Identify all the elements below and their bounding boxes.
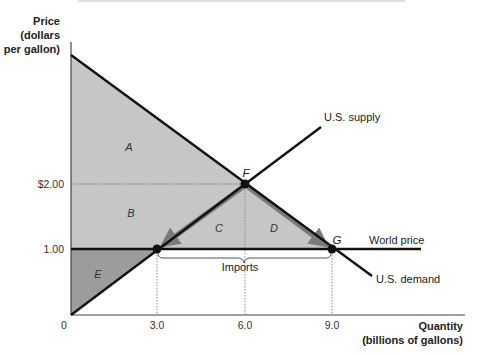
region-a-label: A (124, 141, 132, 153)
chart-canvas: Price (dollars per gallon) Quantity (bil… (0, 0, 482, 355)
x-tick-6: 6.0 (238, 319, 253, 331)
supply-label: U.S. supply (324, 111, 381, 123)
y-tick-2: $2.00 (38, 178, 64, 190)
demand-label: U.S. demand (376, 273, 440, 285)
y-axis-title-line1: Price (33, 15, 60, 27)
world-price-label: World price (369, 234, 424, 246)
y-tick-1: 1.00 (44, 243, 65, 255)
region-b-label: B (127, 207, 134, 219)
x-tick-9: 9.0 (325, 319, 340, 331)
x-axis-title-line2: (billions of gallons) (362, 334, 463, 346)
y-axis-title-line2: (dollars (20, 29, 60, 41)
region-c-label: C (215, 222, 223, 234)
x-axis-title-line1: Quantity (418, 320, 463, 332)
imports-label: Imports (222, 261, 259, 273)
point-f-marker (241, 180, 250, 189)
region-d-label: D (270, 222, 278, 234)
x-tick-0: 0 (61, 319, 67, 331)
point-domestic-supply-marker (153, 245, 162, 254)
y-axis-title-line3: per gallon) (4, 43, 61, 55)
region-e-label: E (94, 268, 102, 280)
x-tick-3: 3.0 (150, 319, 165, 331)
point-g-label: G (333, 234, 342, 246)
point-f-label: F (242, 167, 250, 179)
